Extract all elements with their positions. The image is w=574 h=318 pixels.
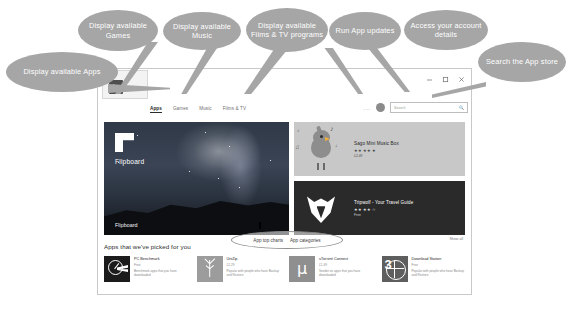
callout-run-app-updates: Run App updates bbox=[329, 12, 401, 50]
wolf-head-icon bbox=[294, 181, 348, 235]
promo-app-name: Sago Mini Music Box bbox=[354, 141, 399, 146]
hero-title: Flipboard bbox=[115, 158, 144, 165]
callout-text: Access your account details bbox=[408, 21, 484, 40]
promo-price: £2.49 bbox=[354, 154, 399, 158]
music-note-icon: ♪ bbox=[297, 127, 300, 133]
app-price: £1.49 bbox=[319, 263, 373, 267]
promo-rating: ★★★★☆ bbox=[354, 207, 413, 212]
download-station-icon: 3 bbox=[382, 256, 408, 282]
screenshot-root: Store Apps Games Music Films & TV bbox=[0, 0, 574, 318]
promo-column: ♪ ♫ ♪ ♩ Sago Mini Music Box bbox=[294, 122, 465, 235]
show-all-link[interactable]: Show all bbox=[449, 237, 463, 241]
callout-display-available-music: Display available Music bbox=[163, 12, 241, 50]
app-card-download-station[interactable]: 3 Download Station Free Popular with peo… bbox=[382, 256, 466, 282]
promo-text: Sago Mini Music Box ★★★★★ £2.49 bbox=[348, 141, 399, 158]
minimize-icon[interactable] bbox=[421, 73, 437, 85]
store-content-area: Flipboard Flipboard ♪ ♫ ♪ ♩ bbox=[98, 117, 471, 295]
app-meta: uTorrent Connect £1.49 Seeder on apps th… bbox=[319, 256, 373, 282]
person-silhouette bbox=[259, 222, 261, 229]
app-meta: Download Station Free Popular with peopl… bbox=[412, 256, 466, 282]
app-description: Popular with people who have Backup and … bbox=[227, 269, 281, 278]
app-price: £2.29 bbox=[227, 263, 281, 267]
utorrent-icon: μ bbox=[289, 256, 315, 282]
featured-row: Flipboard Flipboard ♪ ♫ ♪ ♩ bbox=[104, 122, 465, 235]
app-name: uTorrent Connect bbox=[319, 257, 373, 261]
search-input[interactable]: Search 🔍 bbox=[390, 102, 468, 113]
app-name: PC Benchmark bbox=[134, 257, 188, 261]
callout-text: Run App updates bbox=[336, 26, 395, 35]
unizip-icon bbox=[197, 256, 223, 282]
music-note-icon: ♫ bbox=[295, 144, 300, 150]
callout-search-the-app-store: Search the App store bbox=[478, 42, 566, 82]
app-categories-label[interactable]: App categories bbox=[290, 238, 321, 243]
promo-rating: ★★★★★ bbox=[354, 148, 399, 153]
music-note-icon: ♩ bbox=[335, 142, 341, 148]
callout-display-available-films-tv: Display available Films & TV programs bbox=[246, 8, 328, 52]
bird-character bbox=[308, 130, 334, 170]
app-card-utorrent-connect[interactable]: μ uTorrent Connect £1.49 Seeder on apps … bbox=[289, 256, 373, 282]
wolf-head-shape bbox=[307, 193, 335, 223]
window-titlebar: Store bbox=[98, 69, 471, 101]
search-icon: 🔍 bbox=[459, 105, 464, 110]
search-placeholder: Search bbox=[394, 106, 405, 110]
app-description: Popular with people who have Backup and … bbox=[412, 269, 466, 278]
app-card-unizip[interactable]: UniZip £2.29 Popular with people who hav… bbox=[197, 256, 281, 282]
maximize-icon[interactable] bbox=[437, 73, 453, 85]
nav-tab-games[interactable]: Games bbox=[173, 106, 188, 112]
hero-subtitle: Flipboard bbox=[115, 222, 137, 228]
app-price: Free bbox=[134, 263, 188, 267]
app-top-charts-label[interactable]: App top charts bbox=[253, 238, 283, 243]
app-charts-categories-highlight: App top charts App categories bbox=[231, 231, 343, 249]
app-meta: UniZip £2.29 Popular with people who hav… bbox=[227, 256, 281, 282]
app-updates-button[interactable]: ... bbox=[364, 105, 371, 111]
app-meta: PC Benchmark Free Benchmark apps that yo… bbox=[134, 256, 188, 282]
promo-tile-tripwolf[interactable]: Tripwolf - Your Travel Guide ★★★★☆ Free bbox=[294, 181, 465, 235]
app-name: UniZip bbox=[227, 257, 281, 261]
callout-text: Display available Games bbox=[82, 21, 154, 40]
app-description: Seeder on apps that you have downloaded bbox=[319, 269, 373, 278]
callout-access-account-details: Access your account details bbox=[404, 10, 488, 50]
bird-music-icon: ♪ ♫ ♪ ♩ bbox=[294, 122, 348, 176]
nav-tab-music[interactable]: Music bbox=[199, 106, 212, 112]
app-card-pc-benchmark[interactable]: PC Benchmark Free Benchmark apps that yo… bbox=[104, 256, 188, 282]
promo-app-name: Tripwolf - Your Travel Guide bbox=[354, 200, 413, 205]
close-icon[interactable] bbox=[453, 73, 469, 85]
navigation-right-cluster: ... Search 🔍 bbox=[364, 102, 468, 113]
callout-text: Display available Films & TV programs bbox=[250, 21, 324, 40]
callout-display-available-apps: Display available Apps bbox=[6, 52, 118, 92]
callout-display-available-games: Display available Games bbox=[78, 10, 158, 51]
account-avatar[interactable] bbox=[376, 103, 385, 112]
windows-store-window: Store Apps Games Music Films & TV bbox=[97, 68, 472, 295]
app-description: Benchmark apps that you have downloaded bbox=[134, 269, 188, 278]
callout-text: Display available Apps bbox=[23, 67, 100, 76]
nav-tab-apps[interactable]: Apps bbox=[150, 106, 162, 113]
promo-text: Tripwolf - Your Travel Guide ★★★★☆ Free bbox=[348, 200, 413, 217]
promo-price: Free bbox=[354, 213, 413, 217]
app-name: Download Station bbox=[412, 257, 466, 261]
callout-text: Search the App store bbox=[486, 57, 558, 66]
hero-tile-flipboard[interactable]: Flipboard Flipboard bbox=[104, 122, 289, 235]
app-price: Free bbox=[412, 263, 466, 267]
pc-benchmark-icon bbox=[104, 256, 130, 282]
window-controls bbox=[421, 73, 469, 85]
promo-tile-sago-mini[interactable]: ♪ ♫ ♪ ♩ Sago Mini Music Box bbox=[294, 122, 465, 176]
picked-apps-grid: PC Benchmark Free Benchmark apps that yo… bbox=[104, 256, 465, 282]
store-navigation-bar: Apps Games Music Films & TV ... Search 🔍 bbox=[98, 101, 471, 117]
nav-tab-films-tv[interactable]: Films & TV bbox=[223, 106, 246, 112]
callout-text: Display available Music bbox=[167, 22, 237, 41]
